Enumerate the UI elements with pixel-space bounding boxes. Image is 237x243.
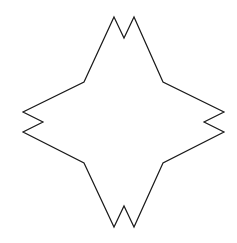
notched-star-shape bbox=[23, 17, 224, 227]
diagram-canvas bbox=[0, 0, 237, 243]
